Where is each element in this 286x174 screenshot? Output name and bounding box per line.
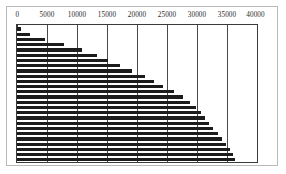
bar-row <box>17 127 257 130</box>
bar-row <box>17 75 257 78</box>
bar-row <box>17 122 257 125</box>
bar <box>17 38 45 41</box>
bar-row <box>17 43 257 46</box>
x-axis-tick-labels: 0500010000150002000025000300003500040000 <box>16 9 258 22</box>
bar-row <box>17 27 257 30</box>
bar-row <box>17 90 257 93</box>
bar <box>17 158 235 161</box>
bar-row <box>17 80 257 83</box>
bar <box>17 153 233 156</box>
bar <box>17 127 213 130</box>
x-tick-label: 0 <box>16 9 20 22</box>
bar <box>17 90 174 93</box>
chart-figure: 0500010000150002000025000300003500040000 <box>0 0 286 174</box>
bar <box>17 69 132 72</box>
bar <box>17 122 209 125</box>
x-tick-label: 40000 <box>246 9 264 22</box>
bar <box>17 101 190 104</box>
bar <box>17 43 64 46</box>
bar <box>17 116 205 119</box>
bar <box>17 143 226 146</box>
x-tick-label: 30000 <box>188 9 206 22</box>
x-tick-label: 10000 <box>68 9 86 22</box>
bar <box>17 106 196 109</box>
bar <box>17 75 145 78</box>
x-tick-label: 5000 <box>40 9 55 22</box>
bar-row <box>17 48 257 51</box>
bar <box>17 111 201 114</box>
x-tick-label: 15000 <box>98 9 116 22</box>
bar-row <box>17 69 257 72</box>
bar-row <box>17 38 257 41</box>
bar-row <box>17 137 257 140</box>
bar <box>17 80 154 83</box>
bar <box>17 137 222 140</box>
plot-area <box>16 24 258 163</box>
bar <box>17 132 218 135</box>
x-tick-label: 35000 <box>218 9 236 22</box>
bar-row <box>17 59 257 62</box>
x-tick-label: 20000 <box>128 9 146 22</box>
bar <box>17 85 163 88</box>
bar-row <box>17 153 257 156</box>
x-tick-label: 25000 <box>158 9 176 22</box>
axis-tick-mark <box>257 25 258 27</box>
bar-row <box>17 54 257 57</box>
bar <box>17 148 230 151</box>
bar-row <box>17 101 257 104</box>
bar-series <box>17 25 257 162</box>
bar <box>17 95 183 98</box>
bar <box>17 54 97 57</box>
bar-row <box>17 95 257 98</box>
bar-row <box>17 106 257 109</box>
bar <box>17 64 120 67</box>
bar <box>17 59 108 62</box>
bar-row <box>17 64 257 67</box>
bar <box>17 27 21 30</box>
bar-row <box>17 116 257 119</box>
bar-row <box>17 132 257 135</box>
bar <box>17 33 30 36</box>
bar <box>17 48 82 51</box>
bar-row <box>17 158 257 161</box>
bar-row <box>17 148 257 151</box>
bar-row <box>17 143 257 146</box>
bar-row <box>17 111 257 114</box>
bar-row <box>17 33 257 36</box>
bar-row <box>17 85 257 88</box>
